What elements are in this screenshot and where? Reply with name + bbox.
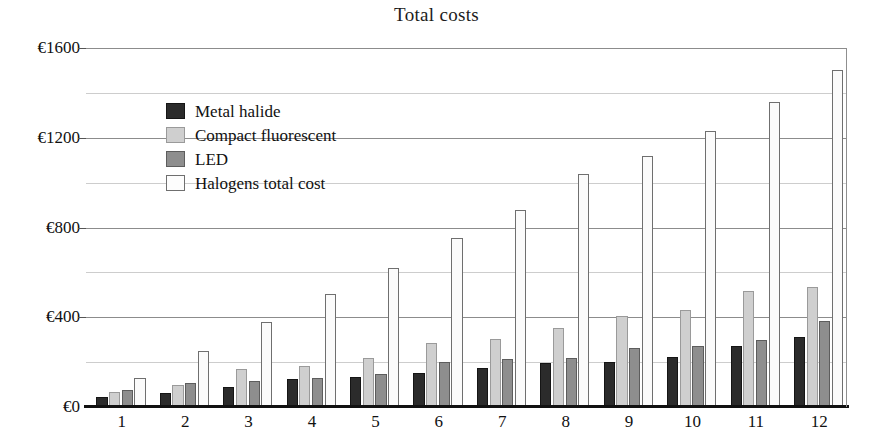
- x-tick-label: 5: [371, 412, 380, 431]
- bar: [667, 357, 678, 407]
- x-tick-label: 6: [435, 412, 444, 431]
- legend-item-label: LED: [195, 150, 228, 169]
- bar: [756, 340, 767, 407]
- legend-item[interactable]: LED: [166, 147, 416, 171]
- x-axis: 123456789101112: [86, 412, 847, 442]
- chart-legend: Metal halideCompact fluorescentLEDHaloge…: [166, 99, 416, 195]
- bar: [604, 362, 615, 407]
- bar: [439, 362, 450, 407]
- legend-swatch-icon: [166, 175, 185, 191]
- bar: [629, 348, 640, 407]
- bar: [249, 381, 260, 407]
- bar: [832, 70, 843, 407]
- bar: [566, 358, 577, 407]
- gridline-major: [86, 317, 847, 318]
- bar: [426, 343, 437, 407]
- bar: [312, 378, 323, 407]
- bar: [134, 378, 145, 407]
- bar: [198, 351, 209, 407]
- bar: [642, 156, 653, 407]
- bar: [325, 294, 336, 407]
- chart-title: Total costs: [0, 4, 873, 26]
- bar: [350, 377, 361, 407]
- y-tick-label: €0: [6, 398, 80, 415]
- plot-right-border: [846, 48, 847, 407]
- legend-item-label: Metal halide: [195, 102, 280, 121]
- x-tick-label: 1: [117, 412, 126, 431]
- bar: [819, 321, 830, 407]
- bar: [287, 379, 298, 407]
- chart-root: Total costs €0€400€800€1200€1600 1234567…: [0, 0, 873, 447]
- bar: [388, 268, 399, 407]
- x-tick-label: 3: [244, 412, 253, 431]
- bar: [375, 374, 386, 407]
- y-tick-label: €1600: [6, 39, 80, 56]
- gridline-major: [86, 48, 847, 49]
- x-tick-label: 4: [308, 412, 317, 431]
- y-tick-label: €1200: [6, 129, 80, 146]
- bar: [363, 358, 374, 407]
- legend-swatch-icon: [166, 103, 185, 119]
- x-tick-label: 7: [498, 412, 507, 431]
- bar: [236, 369, 247, 407]
- y-axis: €0€400€800€1200€1600: [0, 0, 80, 447]
- x-tick-label: 2: [181, 412, 190, 431]
- bar: [616, 316, 627, 407]
- bar: [769, 102, 780, 407]
- legend-item[interactable]: Compact fluorescent: [166, 123, 416, 147]
- bar: [731, 346, 742, 407]
- bar: [794, 337, 805, 407]
- bar: [692, 346, 703, 407]
- bar: [578, 174, 589, 407]
- y-tick-label: €800: [6, 219, 80, 236]
- bar: [477, 368, 488, 407]
- bar: [172, 385, 183, 407]
- bar: [515, 210, 526, 407]
- bar: [490, 339, 501, 407]
- gridline-minor: [86, 93, 847, 94]
- bar: [299, 366, 310, 407]
- bar: [413, 373, 424, 407]
- x-tick-label: 12: [811, 412, 828, 431]
- legend-item[interactable]: Halogens total cost: [166, 171, 416, 195]
- x-tick-label: 10: [684, 412, 701, 431]
- legend-swatch-icon: [166, 151, 185, 167]
- bar: [743, 291, 754, 407]
- bar: [540, 363, 551, 407]
- gridline-major: [86, 228, 847, 229]
- bar: [502, 359, 513, 407]
- y-tick-label: €400: [6, 308, 80, 325]
- legend-item[interactable]: Metal halide: [166, 99, 416, 123]
- x-tick-label: 8: [561, 412, 570, 431]
- bar: [553, 328, 564, 407]
- legend-item-label: Halogens total cost: [195, 174, 325, 193]
- x-tick-label: 9: [625, 412, 634, 431]
- bar: [807, 287, 818, 407]
- bar: [223, 387, 234, 407]
- x-tick-label: 11: [748, 412, 764, 431]
- bar: [705, 131, 716, 407]
- bar: [680, 310, 691, 407]
- legend-item-label: Compact fluorescent: [195, 126, 336, 145]
- legend-swatch-icon: [166, 127, 185, 143]
- gridline-minor: [86, 272, 847, 273]
- bar: [185, 383, 196, 407]
- bar: [451, 238, 462, 407]
- x-axis-line: [84, 405, 849, 408]
- bar: [261, 322, 272, 407]
